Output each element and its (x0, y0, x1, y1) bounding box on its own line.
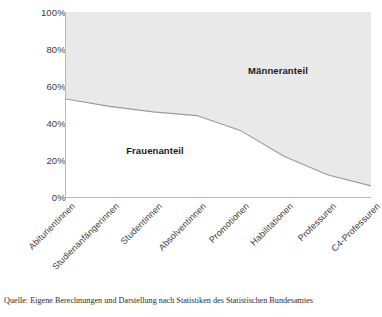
x-tick-label-promotionen: Promotionen (207, 201, 251, 245)
y-tick-label-40: 40% (46, 118, 66, 129)
x-tick-label-habilitationen: Habilitationen (248, 201, 295, 248)
y-tick-label-0: 0% (52, 192, 66, 203)
stacked-area-series (66, 12, 371, 197)
y-tick-label-80: 80% (46, 44, 66, 55)
x-tick-label-studentinnen: Studentinnen (119, 201, 164, 246)
series-label-frauenanteil: Frauenanteil (126, 145, 184, 156)
source-note: Quelle: Eigene Berechnungen und Darstell… (4, 296, 374, 305)
y-tick-label-20: 20% (46, 155, 66, 166)
series-label-maenneranteil: Männeranteil (248, 65, 308, 76)
x-axis-line (65, 197, 371, 198)
x-tick-label-absolventinnen: Absolventinnen (156, 201, 208, 253)
y-tick-label-100: 100% (41, 7, 66, 18)
plot-area (66, 12, 371, 197)
y-tick-label-60: 60% (46, 81, 66, 92)
x-tick-label-c4-professuren: C4-Professuren (329, 201, 382, 254)
x-tick-label-professuren: Professuren (296, 201, 338, 243)
